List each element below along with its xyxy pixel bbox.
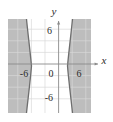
graph-svg: y x 6 -6 -6 6 0 <box>0 0 113 122</box>
x-axis-label: x <box>101 54 107 66</box>
hyperbola-inequality-graph: y x 6 -6 -6 6 0 <box>0 0 113 122</box>
x-tick-label-positive: 6 <box>77 68 82 79</box>
x-tick-label-negative: -6 <box>20 68 28 79</box>
x-axis-arrow-icon <box>95 62 98 65</box>
y-tick-label-positive: 6 <box>47 25 52 36</box>
y-tick-label-negative: -6 <box>45 92 53 103</box>
origin-label: 0 <box>49 68 54 79</box>
y-axis-label: y <box>51 5 57 17</box>
